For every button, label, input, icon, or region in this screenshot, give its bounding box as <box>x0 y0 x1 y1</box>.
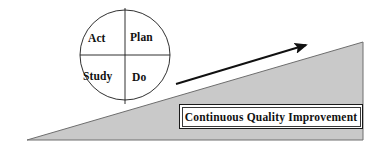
cqi-callout-text: Continuous Quality Improvement <box>185 111 358 123</box>
figure-canvas <box>0 0 380 152</box>
cqi-callout-inner-border: Continuous Quality Improvement <box>182 107 361 127</box>
pdsa-quadrant-label-act: Act <box>88 32 106 44</box>
cqi-callout-box: Continuous Quality Improvement <box>179 104 363 129</box>
pdsa-quadrant-label-plan: Plan <box>130 31 153 43</box>
pdsa-wheel <box>80 8 170 104</box>
cqi-figure: Act Plan Study Do Continuous Quality Imp… <box>0 0 380 152</box>
pdsa-quadrant-label-study: Study <box>83 70 112 82</box>
pdsa-quadrant-label-do: Do <box>132 71 146 83</box>
